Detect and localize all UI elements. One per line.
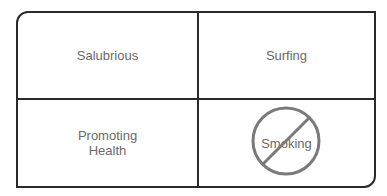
- cell-label-promoting-health: Promoting Health: [78, 128, 137, 158]
- no-symbol-slash: [263, 118, 309, 164]
- cell-label-salubrious: Salubrious: [77, 48, 138, 63]
- no-symbol-icon: [250, 105, 322, 177]
- cell-bottom-left: Promoting Health: [18, 100, 197, 186]
- cell-top-left: Salubrious: [18, 13, 197, 98]
- quadrant-grid: Salubrious Surfing Promoting Health Smok…: [16, 11, 376, 188]
- cell-top-right: Surfing: [199, 13, 374, 98]
- cell-label-surfing: Surfing: [266, 48, 307, 63]
